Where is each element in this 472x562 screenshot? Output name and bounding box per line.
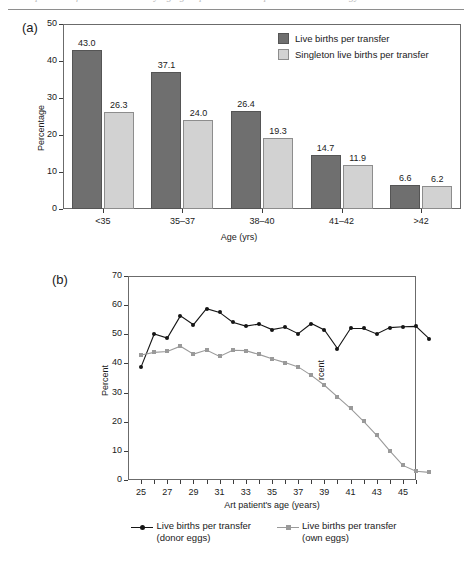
x-tick-b bbox=[180, 480, 181, 484]
marker-own-eggs bbox=[296, 365, 300, 369]
marker-own-eggs bbox=[191, 352, 195, 356]
y-tick-b bbox=[124, 305, 128, 306]
x-axis-title-a: Age (yrs) bbox=[221, 232, 258, 242]
bar-value-label: 26.4 bbox=[223, 99, 269, 109]
marker-own-eggs bbox=[165, 349, 169, 353]
chart-a-bar-chart: (a) Percentage 01020304050 43.026.337.12… bbox=[0, 14, 472, 254]
marker-donor-eggs bbox=[296, 332, 300, 336]
marker-own-eggs bbox=[401, 463, 405, 467]
bar-live-births bbox=[72, 50, 102, 209]
y-tick-label-b: 60 bbox=[98, 299, 122, 309]
bar-singleton-live-births bbox=[343, 165, 373, 209]
legend-point bbox=[286, 525, 291, 530]
legend-label-b-line2: (donor eggs) bbox=[156, 532, 251, 544]
x-tick-a bbox=[342, 209, 343, 213]
marker-donor-eggs bbox=[414, 324, 418, 328]
marker-own-eggs bbox=[309, 373, 313, 377]
running-text: comparison of live birth rates by age gr… bbox=[18, 0, 458, 2]
y-tick-label-b: 40 bbox=[98, 357, 122, 367]
x-tick-b bbox=[220, 480, 221, 484]
bar-value-label: 26.3 bbox=[96, 100, 142, 110]
x-tick-a bbox=[182, 209, 183, 213]
legend-swatch-singleton bbox=[278, 49, 289, 60]
x-tick-b bbox=[246, 480, 247, 484]
legend-label-b: Live births per transfer(donor eggs) bbox=[156, 520, 251, 544]
bar-value-label: 24.0 bbox=[175, 108, 221, 118]
marker-own-eggs bbox=[257, 352, 261, 356]
x-tick-b bbox=[311, 480, 312, 484]
marker-donor-eggs bbox=[205, 307, 209, 311]
marker-donor-eggs bbox=[270, 328, 274, 332]
y-tick-label-b: 0 bbox=[98, 474, 122, 484]
marker-donor-eggs bbox=[244, 324, 248, 328]
x-tick-b bbox=[167, 480, 168, 484]
marker-donor-eggs bbox=[375, 332, 379, 336]
y-tick-a bbox=[59, 209, 63, 210]
y-tick-a bbox=[59, 24, 63, 25]
x-tick-b bbox=[285, 480, 286, 484]
x-tick-b bbox=[364, 480, 365, 484]
bar-value-label: 11.9 bbox=[335, 153, 381, 163]
marker-own-eggs bbox=[322, 383, 326, 387]
x-tick-b bbox=[416, 480, 417, 484]
y-tick-label-a: 20 bbox=[33, 129, 57, 139]
marker-own-eggs bbox=[388, 449, 392, 453]
bar-singleton-live-births bbox=[263, 138, 293, 209]
y-tick-label-b: 30 bbox=[98, 387, 122, 397]
y-tick-b bbox=[124, 393, 128, 394]
panel-label-b: (b) bbox=[52, 272, 68, 287]
y-tick-label-b: 20 bbox=[98, 416, 122, 426]
legend-label-a: Singleton live births per transfer bbox=[295, 49, 429, 60]
y-axis-title-a: Percentage bbox=[36, 105, 46, 151]
legend-b: Live births per transfer(donor eggs)Live… bbox=[84, 520, 444, 544]
marker-own-eggs bbox=[427, 470, 431, 474]
marker-own-eggs bbox=[231, 348, 235, 352]
legend-marker-donor-eggs bbox=[131, 522, 153, 533]
x-tick-b bbox=[377, 480, 378, 484]
y-tick-a bbox=[59, 61, 63, 62]
legend-item-b: Live births per transfer(own eggs) bbox=[277, 520, 397, 544]
y-tick-a bbox=[59, 135, 63, 136]
x-tick-label-b: 45 bbox=[387, 487, 419, 497]
bar-value-label: 37.1 bbox=[143, 60, 189, 70]
x-tick-b bbox=[324, 480, 325, 484]
x-tick-b bbox=[193, 480, 194, 484]
y-tick-a bbox=[59, 98, 63, 99]
legend-label-b-line1: Live births per transfer bbox=[302, 520, 397, 532]
x-tick-b bbox=[337, 480, 338, 484]
marker-own-eggs bbox=[335, 395, 339, 399]
bar-value-label: 6.2 bbox=[414, 174, 460, 184]
legend-swatch-live-births bbox=[278, 33, 289, 44]
y-tick-label-a: 50 bbox=[33, 18, 57, 28]
y-tick-label-b: 70 bbox=[98, 270, 122, 280]
x-tick-label-a: 35–37 bbox=[152, 216, 212, 226]
marker-own-eggs bbox=[349, 406, 353, 410]
x-axis-title-b: Art patient's age (years) bbox=[224, 500, 319, 510]
bar-singleton-live-births bbox=[104, 112, 134, 209]
x-tick-b bbox=[272, 480, 273, 484]
header-divider-rule bbox=[8, 9, 464, 10]
x-tick-b bbox=[298, 480, 299, 484]
x-tick-b bbox=[141, 480, 142, 484]
marker-own-eggs bbox=[218, 354, 222, 358]
marker-own-eggs bbox=[414, 469, 418, 473]
y-tick-b bbox=[124, 363, 128, 364]
legend-a: Live births per transferSingleton live b… bbox=[278, 32, 429, 64]
bar-value-label: 43.0 bbox=[64, 38, 110, 48]
y-tick-a bbox=[59, 172, 63, 173]
x-tick-label-a: >42 bbox=[391, 216, 451, 226]
y-tick-label-b: 50 bbox=[98, 328, 122, 338]
bar-live-births bbox=[390, 185, 420, 209]
page-running-text-clipped: comparison of live birth rates by age gr… bbox=[0, 0, 472, 8]
plot-area-b bbox=[128, 276, 416, 480]
stray-percent-text: rcent bbox=[316, 360, 326, 380]
y-tick-label-b: 10 bbox=[98, 445, 122, 455]
y-tick-label-a: 40 bbox=[33, 55, 57, 65]
bar-value-label: 14.7 bbox=[303, 143, 349, 153]
x-tick-b bbox=[259, 480, 260, 484]
x-tick-b bbox=[403, 480, 404, 484]
y-tick-b bbox=[124, 422, 128, 423]
marker-own-eggs bbox=[139, 353, 143, 357]
x-tick-b bbox=[351, 480, 352, 484]
y-tick-b bbox=[124, 276, 128, 277]
